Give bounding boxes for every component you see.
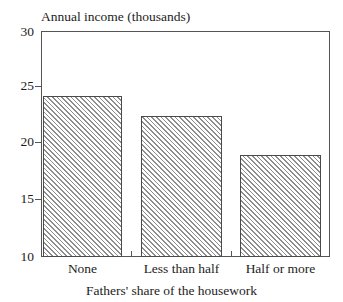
y-tick-label-25: 25 [8,79,34,93]
y-tick-label-20: 20 [8,135,34,149]
bar-less-than-half [141,116,222,257]
bar-chart: Annual income (thousands) 30 25 20 15 10… [0,0,343,302]
y-tick-mark-15 [35,199,41,200]
y-axis-title: Annual income (thousands) [41,9,190,24]
x-category-label-less-than-half: Less than half [131,261,232,277]
y-tick-label-15: 15 [8,192,34,206]
x-tick-mark-2 [231,251,232,257]
y-tick-mark-25 [35,86,41,87]
bar-none [43,96,122,257]
bar-half-or-more [240,155,321,257]
y-tick-mark-20 [35,142,41,143]
x-category-label-none: None [42,261,123,277]
x-category-label-half-or-more: Half or more [231,261,330,277]
x-axis-title: Fathers' share of the housework [0,283,343,299]
x-tick-mark-1 [131,251,132,257]
y-tick-label-30: 30 [8,25,34,39]
y-tick-label-10: 10 [8,250,34,264]
